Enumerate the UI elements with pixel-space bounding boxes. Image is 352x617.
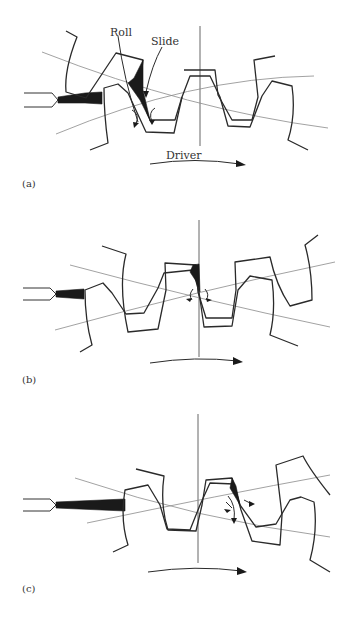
slide-arrow-down (228, 496, 234, 520)
probe-tool (24, 93, 58, 107)
slide-label: Slide (151, 35, 179, 48)
driver-arrowhead (237, 567, 247, 575)
roll-curl-left-head (186, 298, 192, 302)
roll-curl-right-head (206, 298, 212, 302)
panel-a: Roll Slide Driver (a) (22, 26, 328, 189)
driven-gear-profile-c (136, 456, 330, 545)
panel-b-label: (b) (22, 374, 36, 385)
driver-direction-arrow (148, 568, 242, 572)
slide-leader (146, 47, 162, 92)
driver-label: Driver (166, 149, 202, 162)
gear-mesh-figure: Roll Slide Driver (a) (b) (0, 0, 352, 617)
panel-c-label: (c) (22, 583, 36, 594)
roll-label: Roll (110, 26, 132, 39)
contact-wedge (190, 264, 200, 292)
probe-tool (23, 288, 56, 300)
roll-arrow-left (226, 502, 232, 508)
driver-gear-profile-b (80, 270, 298, 352)
roll-curl-left-head (133, 122, 139, 128)
contact-band (56, 289, 84, 299)
roll-curl-right-head (149, 120, 155, 125)
panel-b: (b) (22, 220, 335, 385)
driver-gear-profile-a (90, 76, 308, 150)
roll-arrowhead-right (249, 501, 255, 507)
probe-tool (23, 499, 56, 511)
contact-band (56, 499, 125, 511)
panel-c: (c) (22, 414, 330, 594)
roll-arrowhead-left (224, 509, 231, 513)
driver-arrowhead (236, 160, 246, 167)
driver-gear-profile-c (113, 483, 330, 572)
driver-direction-arrow (150, 359, 238, 363)
contact-band (58, 92, 102, 104)
panel-a-label: (a) (22, 178, 36, 189)
driver-arrowhead (233, 357, 243, 365)
